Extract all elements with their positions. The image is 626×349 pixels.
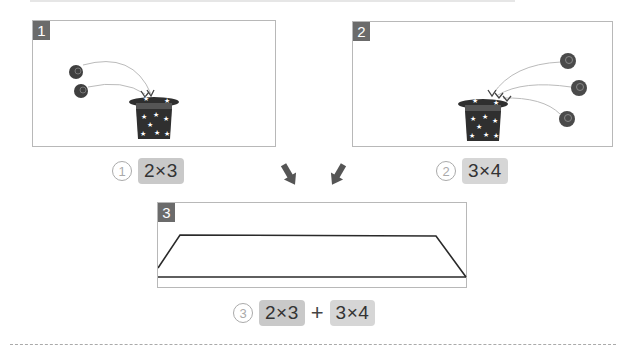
svg-text:★: ★ xyxy=(164,130,170,138)
expression-pill: 3×4 xyxy=(462,158,508,184)
svg-text:★: ★ xyxy=(164,97,170,105)
expression-pill-left: 2×3 xyxy=(259,300,305,326)
svg-text:★: ★ xyxy=(147,121,153,129)
svg-text:★: ★ xyxy=(469,132,475,140)
bottom-dotted-divider xyxy=(10,344,616,345)
ball-icon xyxy=(571,80,587,96)
circled-number: 1 xyxy=(112,161,132,181)
svg-text:★: ★ xyxy=(154,129,160,137)
expression-pill-right: 3×4 xyxy=(330,300,376,326)
svg-text:★: ★ xyxy=(143,95,149,103)
svg-text:★: ★ xyxy=(163,115,169,123)
caption-1: 1 2×3 xyxy=(112,158,184,184)
panel-3: 3 xyxy=(157,202,467,288)
svg-text:★: ★ xyxy=(476,123,482,131)
ball-icon xyxy=(559,111,575,127)
ball-icon xyxy=(560,53,576,69)
panel-2: 2 ★★ ★★★ ★ ★★★ xyxy=(352,21,613,147)
plus-operator: + xyxy=(311,301,324,325)
svg-text:★: ★ xyxy=(141,113,147,121)
svg-text:★: ★ xyxy=(493,99,499,107)
circled-number: 3 xyxy=(233,303,253,323)
svg-text:★: ★ xyxy=(493,132,499,140)
ball-icon xyxy=(69,65,83,79)
svg-text:★: ★ xyxy=(470,115,476,123)
circled-number: 2 xyxy=(436,161,456,181)
ball-icon xyxy=(74,84,88,98)
arrow-down-icon xyxy=(326,161,350,188)
svg-text:★: ★ xyxy=(492,117,498,125)
arrow-down-icon xyxy=(277,161,301,188)
expression-pill: 2×3 xyxy=(138,158,184,184)
magic-hat-icon: ★★ ★★★ ★ ★★★ xyxy=(129,95,179,139)
svg-text:★: ★ xyxy=(482,113,488,121)
panel-1: 1 ★★ ★★★ ★ ★★★ xyxy=(32,20,276,147)
svg-text:★: ★ xyxy=(140,130,146,138)
panel-2-illustration: ★★ ★★★ ★ ★★★ xyxy=(353,22,614,148)
svg-text:★: ★ xyxy=(483,131,489,139)
svg-text:★: ★ xyxy=(472,97,478,105)
panel-1-illustration: ★★ ★★★ ★ ★★★ xyxy=(33,21,277,148)
caption-3: 3 2×3 + 3×4 xyxy=(233,300,375,326)
magic-hat-icon: ★★ ★★★ ★ ★★★ xyxy=(458,97,508,141)
caption-2: 2 3×4 xyxy=(436,158,508,184)
svg-text:★: ★ xyxy=(153,111,159,119)
trapezoid-shape xyxy=(158,203,468,289)
top-divider xyxy=(30,0,515,2)
